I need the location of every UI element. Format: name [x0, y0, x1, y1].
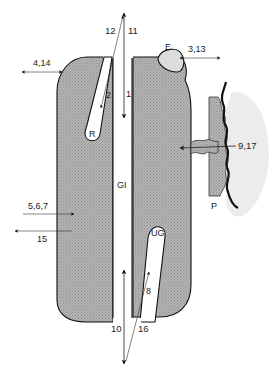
label-GI: GI	[117, 180, 127, 190]
label-4-14: 4,14	[33, 58, 51, 68]
right-tissue-block	[133, 57, 191, 317]
label-10: 10	[111, 323, 122, 334]
label-1: 1	[126, 89, 131, 99]
plant-tissue-shadow	[226, 92, 269, 217]
label-2: 2	[106, 90, 111, 100]
label-16: 16	[138, 323, 149, 334]
label-12: 12	[105, 25, 116, 36]
label-5-6-7: 5,6,7	[28, 201, 48, 211]
label-3-13: 3,13	[188, 44, 206, 54]
label-15: 15	[37, 234, 47, 244]
label-E: E	[165, 42, 171, 52]
label-R: R	[89, 129, 96, 139]
label-8: 8	[146, 286, 151, 296]
label-11: 11	[128, 25, 138, 36]
label-UG: UG	[151, 228, 165, 238]
pathway-diagram: R UG E P 9,17 11 1 12 2 4,14 3,13 5,6,7 …	[0, 0, 276, 375]
label-9-17: 9,17	[238, 140, 257, 151]
label-P: P	[211, 201, 217, 211]
